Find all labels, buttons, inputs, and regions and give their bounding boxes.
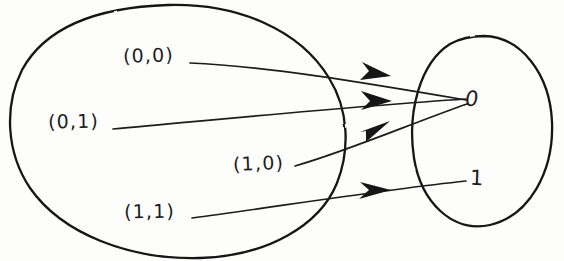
- arrow-00-to-0: [190, 62, 466, 100]
- arrow-10-to-0: [295, 104, 467, 166]
- diagram-canvas: (0,0) (0,1) (1,0) (1,1) 0 1: [0, 0, 564, 261]
- codomain-element-label-1: 1: [470, 166, 485, 190]
- codomain-element-label-0: 0: [464, 87, 480, 112]
- domain-element-label-11: (1,1): [124, 200, 175, 223]
- domain-element-label-10: (1,0): [233, 151, 285, 175]
- domain-element-label-00: (0,0): [123, 43, 175, 66]
- domain-element-label-01: (0,1): [48, 110, 99, 133]
- arrow-11-to-1: [192, 181, 466, 218]
- codomain-oval-outline: [412, 36, 552, 226]
